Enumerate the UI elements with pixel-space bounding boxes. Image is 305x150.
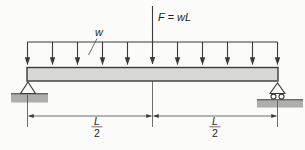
dim-right-denominator: 2 [212,127,218,139]
beam-diagram: w F = wL L 2 L 2 [0,0,305,150]
pin-support-icon [21,82,36,94]
dim-right-numerator: L [212,115,218,127]
ground-right [257,100,303,108]
beam-diagram-canvas: w F = wL L 2 L 2 [0,0,305,150]
point-load-label: F = wL [158,11,191,23]
roller-support-icon [270,83,285,99]
distributed-load-label: w [95,26,104,38]
dim-left-denominator: 2 [94,127,100,139]
ground-left [11,94,48,103]
dimension-label-right: L 2 [210,115,221,140]
dim-left-numerator: L [94,115,100,127]
beam [27,68,278,82]
dimension-label-left: L 2 [92,115,103,140]
w-leader-line [89,39,98,56]
